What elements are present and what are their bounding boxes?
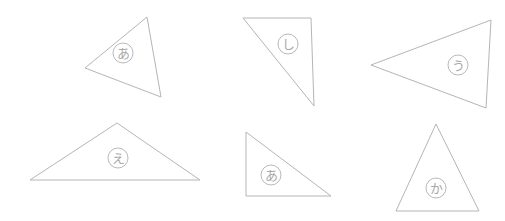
shape-canvas: あしうえあか bbox=[0, 0, 505, 221]
shapes-layer bbox=[0, 0, 505, 221]
triangle-right-lower-middle bbox=[246, 132, 331, 196]
triangle-right-upper-middle bbox=[243, 18, 314, 106]
triangle-wide-flat-lower-left bbox=[30, 123, 200, 180]
triangle-left-pointing-upper-right bbox=[371, 20, 491, 108]
triangle-scalene-upper-left bbox=[85, 17, 161, 97]
